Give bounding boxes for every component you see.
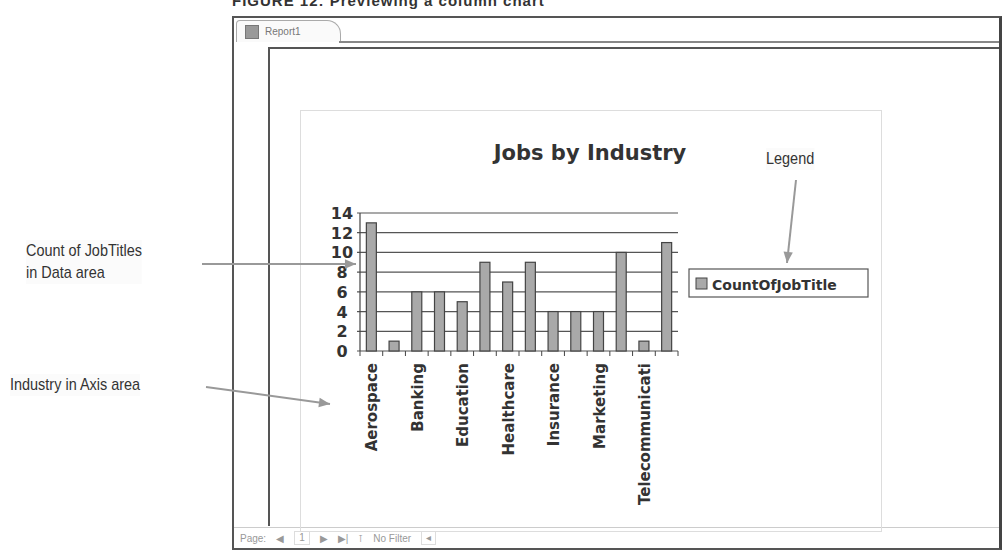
bar-Education[interactable] [457,302,467,351]
callout-legend: Legend [766,148,814,170]
x-tick-label: Aerospace [363,363,381,451]
bar-(unlabeled 2)[interactable] [389,341,399,351]
bar-Aerospace[interactable] [366,223,376,351]
y-tick-label: 14 [331,204,353,223]
y-tick-label: 10 [331,243,353,262]
y-tick-label: 12 [331,224,353,243]
bar-(unlabeled 14)[interactable] [662,243,672,351]
bar-(unlabeled 10)[interactable] [571,312,581,351]
callout-axis-area: Industry in Axis area [10,374,140,396]
arrow-axis-area [206,387,330,404]
arrow-axis-area-head-icon [318,398,330,407]
y-tick-label: 0 [336,342,347,361]
legend-swatch-icon [696,278,707,289]
chart-title: Jobs by Industry [492,141,687,165]
column-chart: Jobs by Industry02468101214AerospaceBank… [0,0,1006,558]
bar-Telecommunicati[interactable] [639,341,649,351]
callout-data-line1: Count of JobTitles [26,240,142,262]
legend-label: CountOfJobTitle [712,277,837,293]
bar-(unlabeled 6)[interactable] [480,262,490,351]
y-tick-label: 6 [336,283,347,302]
bar-Marketing[interactable] [594,312,604,351]
x-tick-label: Healthcare [500,363,518,455]
arrow-legend [787,180,796,263]
x-tick-label: Education [454,363,472,447]
bar-Insurance[interactable] [548,312,558,351]
bar-Banking[interactable] [412,292,422,351]
bar-(unlabeled 4)[interactable] [435,292,445,351]
x-tick-label: Insurance [545,363,563,446]
x-tick-label: Banking [409,363,427,432]
callout-data-line2: in Data area [26,262,142,284]
callout-data-area: Count of JobTitles in Data area [26,240,142,284]
y-tick-label: 4 [336,303,347,322]
y-tick-label: 2 [336,322,347,341]
x-tick-label: Telecommunicati [636,363,654,505]
x-tick-label: Marketing [591,363,609,449]
bar-(unlabeled 12)[interactable] [616,252,626,351]
bar-(unlabeled 8)[interactable] [525,262,535,351]
bar-Healthcare[interactable] [503,282,513,351]
